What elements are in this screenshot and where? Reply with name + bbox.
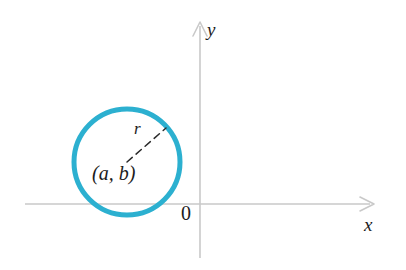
y-axis-label: y: [207, 20, 215, 39]
coordinate-plane-graphic: [0, 0, 406, 270]
circle-center-label: (a, b): [92, 163, 135, 183]
radius-label: r: [134, 120, 141, 137]
x-axis-label: x: [364, 215, 372, 234]
origin-label: 0: [181, 203, 191, 223]
radius-dashed-line: [127, 128, 166, 162]
figure-canvas: y x r (a, b) 0: [0, 0, 406, 270]
